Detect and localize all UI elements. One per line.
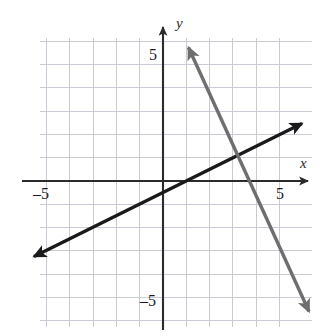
line-2-gray	[189, 48, 310, 312]
grid-lines	[40, 38, 312, 327]
plotted-lines	[34, 48, 309, 312]
y-axis-label: y	[176, 16, 183, 31]
axis-lines	[22, 27, 308, 330]
x-tick-label-5: 5	[276, 186, 284, 202]
line-1-dark	[34, 124, 302, 257]
y-tick-label-5: 5	[149, 47, 157, 63]
coordinate-plane-figure: y x 5 –5 –5 5	[0, 0, 327, 336]
x-axis-label: x	[300, 156, 307, 171]
graph-canvas	[0, 0, 327, 336]
x-tick-label-negative-5: –5	[33, 186, 49, 202]
y-tick-label-negative-5: –5	[140, 293, 156, 309]
